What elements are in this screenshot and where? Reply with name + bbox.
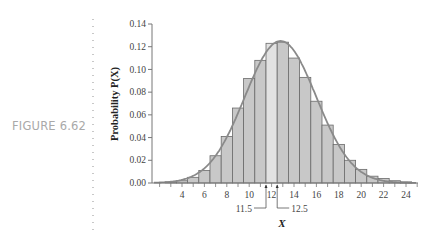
bar [288,58,299,183]
y-tick-label: 0.04 [129,133,146,143]
x-tick-label: 20 [356,190,366,200]
y-tick-label: 0.02 [129,155,146,165]
bar [232,108,243,183]
x-tick-label: 12 [267,190,277,200]
x-tick-label: 10 [244,190,254,200]
bar [344,160,355,183]
y-tick-label: 0.14 [129,19,146,29]
bar [300,77,311,183]
y-tick-label: 0.06 [129,110,146,120]
x-tick-label: 8 [224,190,229,200]
bar [255,60,266,183]
x-tick-label: 22 [379,190,389,200]
bar [277,42,288,183]
annotation-12-5: 12.5 [291,204,308,214]
x-tick-label: 18 [334,190,344,200]
y-tick-label: 0.08 [129,87,146,97]
x-tick-label: 4 [180,190,185,200]
x-tick-label: 24 [401,190,411,200]
y-tick-label: 0.12 [129,42,146,52]
y-axis-label: Probability P(X) [109,66,121,141]
probability-histogram: 0.000.020.040.060.080.100.120.1446810121… [0,0,433,242]
bar [322,125,333,183]
y-tick-label: 0.10 [129,65,146,75]
bar [311,101,322,183]
x-tick-label: 6 [202,190,207,200]
highlighted-bar [266,43,277,183]
x-axis-label: X [277,217,286,229]
x-tick-label: 16 [312,190,322,200]
annotation-11-5: 11.5 [236,204,253,214]
x-tick-label: 14 [289,190,299,200]
y-tick-label: 0.00 [129,178,146,188]
